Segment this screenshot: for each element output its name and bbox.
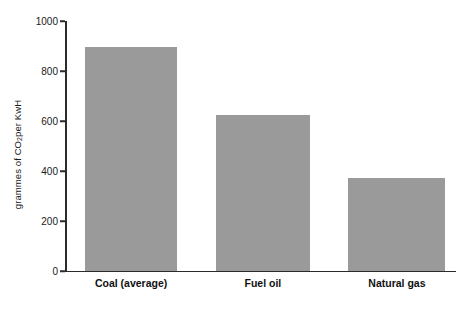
y-axis-tick-label: 800: [28, 66, 58, 77]
y-axis-tick-label: 200: [28, 216, 58, 227]
x-axis-category-labels: Coal (average)Fuel oilNatural gas: [65, 277, 456, 297]
x-axis-category-label: Coal (average): [95, 277, 167, 289]
bar-chart: grammes of CO2 per KwH 02004006008001000…: [0, 0, 471, 309]
x-axis-category-label: Natural gas: [368, 277, 425, 289]
bar: [348, 178, 445, 271]
x-axis-category-label: Fuel oil: [244, 277, 281, 289]
bar: [216, 115, 310, 271]
y-axis-tick-label: 1000: [28, 16, 58, 27]
bar: [85, 47, 177, 271]
y-axis-tick-label: 600: [28, 116, 58, 127]
plot-area: [65, 21, 456, 271]
y-axis-tick-label: 400: [28, 166, 58, 177]
y-axis-tick-label: 0: [28, 266, 58, 277]
y-axis-title-before: grammes of CO: [12, 141, 23, 209]
y-axis-title-subscript: 2: [16, 137, 23, 141]
y-axis-tick-labels: 02004006008001000: [28, 0, 58, 309]
y-axis-title-after: per KwH: [12, 100, 23, 137]
